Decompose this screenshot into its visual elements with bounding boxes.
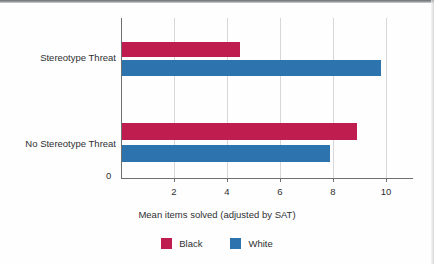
x-tick-label-0: 0 <box>106 170 111 181</box>
x-tick-6 <box>280 178 281 182</box>
category-label-stereotype-threat: Stereotype Threat <box>40 52 116 63</box>
x-tick-2 <box>174 178 175 182</box>
scan-edge-top <box>0 0 434 3</box>
plot-area <box>121 18 387 178</box>
x-tick-4 <box>227 178 228 182</box>
legend-item-black: Black <box>161 238 202 249</box>
x-axis-title: Mean items solved (adjusted by SAT) <box>0 209 434 220</box>
category-label-wrap-bottom: No Stereotype Threat <box>0 138 116 150</box>
x-tick-label-8: 8 <box>330 186 335 197</box>
legend-label-black: Black <box>179 238 202 249</box>
x-tick-label-2: 2 <box>171 186 176 197</box>
legend-item-white: White <box>230 238 272 249</box>
category-label-wrap-top: Stereotype Threat <box>0 52 116 64</box>
bar-no-stereotype-threat-black <box>121 123 357 140</box>
x-axis-line <box>121 178 413 179</box>
gridline-10 <box>386 18 387 178</box>
chart-legend: Black White <box>0 238 434 249</box>
category-label-no-stereotype-threat: No Stereotype Threat <box>25 138 116 149</box>
legend-swatch-white-icon <box>230 238 241 249</box>
legend-swatch-black-icon <box>161 238 172 249</box>
x-tick-label-4: 4 <box>224 186 229 197</box>
x-tick-label-6: 6 <box>277 186 282 197</box>
bar-chart-figure: 0 2 4 6 8 10 Stereotype Threat No Stereo… <box>0 0 434 264</box>
x-tick-10 <box>386 178 387 182</box>
x-tick-label-10: 10 <box>381 186 392 197</box>
x-tick-8 <box>333 178 334 182</box>
bar-stereotype-threat-black <box>121 42 240 57</box>
y-axis-line <box>121 18 122 178</box>
bar-stereotype-threat-white <box>121 60 381 76</box>
gridline-8 <box>333 18 334 178</box>
bar-no-stereotype-threat-white <box>121 145 330 162</box>
legend-label-white: White <box>248 238 272 249</box>
